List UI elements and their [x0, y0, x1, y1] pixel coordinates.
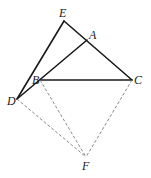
segment-DF	[17, 99, 86, 157]
segment-CF	[86, 80, 132, 157]
geometry-figure: E A B C D F	[0, 0, 151, 178]
segment-BF	[40, 80, 86, 157]
label-A: A	[88, 28, 97, 42]
segment-ED	[17, 21, 64, 99]
label-C: C	[134, 73, 143, 87]
label-F: F	[81, 159, 90, 173]
segment-DA	[17, 40, 87, 99]
label-D: D	[6, 94, 16, 108]
label-E: E	[58, 6, 67, 20]
label-B: B	[32, 73, 40, 87]
